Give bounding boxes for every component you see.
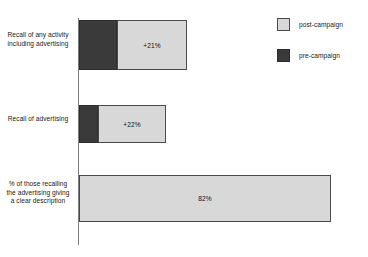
bar-segment-post-label: 82% [198, 195, 212, 202]
bar-segment-post-label: +21% [143, 42, 160, 49]
bar-group-recall-any-activity: +21% [79, 20, 187, 70]
bar-segment-pre-campaign[interactable] [79, 105, 98, 143]
legend-item-pre-campaign[interactable]: pre-campaign [277, 49, 340, 62]
light-swatch-icon [277, 18, 290, 31]
legend-label-pre-campaign: pre-campaign [299, 52, 340, 59]
bar-segment-post-label: +22% [123, 121, 140, 128]
category-label-clear-description: % of those recalling the advertising giv… [4, 180, 72, 206]
bar-chart: Recall of any activity including adverti… [0, 0, 368, 257]
bar-segment-post-campaign[interactable]: +22% [98, 105, 166, 143]
category-label-recall-any-activity: Recall of any activity including adverti… [4, 31, 72, 48]
bar-segment-pre-campaign[interactable] [79, 20, 117, 70]
legend-label-post-campaign: post-campaign [299, 21, 343, 28]
bar-segment-post-campaign[interactable]: +21% [117, 20, 187, 70]
legend-item-post-campaign[interactable]: post-campaign [277, 18, 343, 31]
bar-group-clear-description: 82% [79, 175, 331, 222]
bar-group-recall-advertising: +22% [79, 105, 166, 143]
dark-swatch-icon [277, 49, 290, 62]
bar-segment-post-campaign[interactable]: 82% [79, 175, 331, 222]
category-label-recall-advertising: Recall of advertising [4, 115, 72, 124]
